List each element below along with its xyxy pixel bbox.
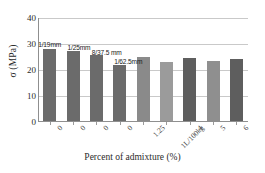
- x-tick-label: 0: [126, 124, 134, 132]
- y-tick-label: 0: [16, 118, 36, 127]
- x-tick-label: 5: [219, 124, 227, 132]
- x-tick-label: 0: [102, 124, 110, 132]
- y-tick-label: 10: [16, 92, 36, 101]
- bar: [113, 65, 126, 121]
- x-tick-label: 6: [242, 124, 250, 132]
- bar: [160, 62, 173, 121]
- y-axis-line: [38, 18, 39, 122]
- bar: [67, 51, 80, 121]
- bar: [43, 49, 56, 121]
- y-tick-label: 20: [16, 66, 36, 75]
- y-tick-label: 40: [16, 14, 36, 23]
- x-axis-title: Percent of admixture (%): [0, 152, 265, 162]
- bar-annotation: 1/19mm: [38, 41, 61, 48]
- bar: [90, 55, 103, 121]
- bar: [137, 57, 150, 121]
- y-axis-tick-labels: 010203040: [12, 0, 36, 173]
- bar-annotation: 1/62.5mm: [114, 58, 142, 65]
- bar-chart-figure: σ (MPa) 010203040 1/19mm1/25mm8/37.5 mm1…: [0, 0, 265, 173]
- bar-annotation: 1/25mm: [68, 44, 91, 51]
- y-tick-label: 30: [16, 40, 36, 49]
- x-tick-label: 0: [56, 124, 64, 132]
- gridline: [38, 18, 248, 19]
- x-tick-label: 1.25: [152, 124, 167, 139]
- x-tick-label: 0: [79, 124, 87, 132]
- bar: [230, 59, 243, 121]
- bar: [207, 61, 220, 121]
- bar-annotation: 8/37.5 mm: [92, 49, 122, 56]
- bar: [183, 58, 196, 121]
- plot-area: 1/19mm1/25mm8/37.5 mm1/62.5mm: [38, 18, 248, 122]
